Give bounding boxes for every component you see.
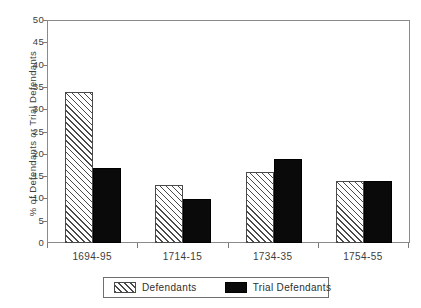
x-tick-mark	[47, 243, 48, 248]
hatched-swatch-icon	[114, 282, 136, 293]
y-tick-mark	[43, 87, 47, 88]
legend-label-defendants: Defendants	[142, 282, 197, 293]
bar-trial-defendants[interactable]	[183, 199, 211, 243]
bars-layer	[48, 21, 409, 243]
bar-defendants[interactable]	[336, 181, 364, 243]
x-tick-label: 1714-15	[137, 251, 227, 262]
x-axis-tick-marks	[47, 243, 410, 249]
y-tick-label: 20	[22, 149, 44, 159]
bar-defendants[interactable]	[155, 185, 183, 243]
bar-group	[319, 21, 409, 243]
x-axis-tick-labels: 1694-951714-151734-351754-55	[47, 251, 410, 265]
legend-label-trial-defendants: Trial Defendants	[253, 282, 332, 293]
bar-defendants[interactable]	[65, 92, 93, 243]
y-tick-label: 50	[22, 15, 44, 25]
y-tick-mark	[43, 132, 47, 133]
y-tick-label: 30	[22, 104, 44, 114]
bar-group	[229, 21, 319, 243]
legend: Defendants Trial Defendants	[103, 277, 329, 298]
y-tick-mark	[43, 20, 47, 21]
y-tick-mark	[43, 198, 47, 199]
bar-trial-defendants[interactable]	[364, 181, 392, 243]
bar-defendants[interactable]	[246, 172, 274, 243]
y-tick-label: 5	[22, 216, 44, 226]
y-tick-label: 35	[22, 82, 44, 92]
y-tick-mark	[43, 65, 47, 66]
x-tick-label: 1754-55	[318, 251, 408, 262]
x-tick-mark	[318, 243, 319, 248]
solid-black-swatch-icon	[225, 282, 247, 293]
y-tick-label: 25	[22, 127, 44, 137]
y-tick-mark	[43, 154, 47, 155]
x-tick-label: 1734-35	[228, 251, 318, 262]
bar-trial-defendants[interactable]	[274, 159, 302, 243]
y-tick-label: 0	[22, 238, 44, 248]
y-tick-mark	[43, 42, 47, 43]
y-tick-label: 45	[22, 37, 44, 47]
y-tick-mark	[43, 176, 47, 177]
y-tick-label: 15	[22, 171, 44, 181]
x-tick-mark	[137, 243, 138, 248]
x-tick-mark	[408, 243, 409, 248]
y-tick-mark	[43, 221, 47, 222]
x-tick-mark	[228, 243, 229, 248]
bar-group	[138, 21, 228, 243]
x-tick-label: 1694-95	[47, 251, 137, 262]
legend-item-trial-defendants[interactable]: Trial Defendants	[225, 278, 332, 297]
y-tick-label: 10	[22, 193, 44, 203]
bar-trial-defendants[interactable]	[93, 168, 121, 243]
legend-item-defendants[interactable]: Defendants	[114, 278, 197, 297]
y-tick-mark	[43, 109, 47, 110]
bar-chart: % of Defendants or Trial Defendants 5045…	[0, 0, 421, 308]
y-tick-label: 40	[22, 60, 44, 70]
y-axis-tick-labels: 50454035302520151050	[22, 20, 44, 243]
bar-group	[48, 21, 138, 243]
